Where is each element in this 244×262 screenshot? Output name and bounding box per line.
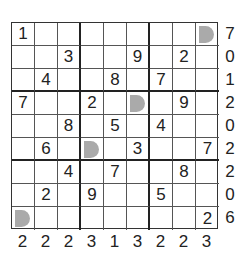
cell-r5-c5[interactable]: 5 [104, 115, 127, 138]
cell-r3-c7[interactable]: 7 [150, 69, 173, 92]
cell-r1-c7[interactable] [150, 23, 173, 46]
cell-r6-c2[interactable]: 6 [35, 138, 58, 161]
cell-value: 7 [110, 162, 119, 182]
cell-r6-c9[interactable]: 7 [196, 138, 219, 161]
cell-r2-c4[interactable] [81, 46, 104, 69]
cell-r8-c8[interactable] [173, 184, 196, 207]
cell-r5-c2[interactable] [35, 115, 58, 138]
cell-r3-c4[interactable] [81, 69, 104, 92]
cell-r7-c1[interactable] [12, 161, 35, 184]
cell-r7-c2[interactable] [35, 161, 58, 184]
cell-r4-c2[interactable] [35, 92, 58, 115]
cell-r8-c6[interactable] [127, 184, 150, 207]
cell-r8-c9[interactable] [196, 184, 219, 207]
cell-r1-c6[interactable] [127, 23, 150, 46]
column-clue-4: 3 [80, 232, 103, 252]
cell-r6-c4[interactable] [81, 138, 104, 161]
cell-r5-c1[interactable] [12, 115, 35, 138]
cell-r4-c9[interactable] [196, 92, 219, 115]
cell-r3-c2[interactable]: 4 [35, 69, 58, 92]
cell-value: 1 [18, 24, 27, 44]
cell-r1-c5[interactable] [104, 23, 127, 46]
cell-r9-c7[interactable] [150, 207, 173, 230]
cell-r8-c1[interactable] [12, 184, 35, 207]
cell-r7-c7[interactable] [150, 161, 173, 184]
cell-r1-c4[interactable] [81, 23, 104, 46]
cell-r4-c1[interactable]: 7 [12, 92, 35, 115]
cell-r8-c4[interactable]: 9 [81, 184, 104, 207]
cell-r5-c6[interactable] [127, 115, 150, 138]
cell-r5-c4[interactable] [81, 115, 104, 138]
row-clue-1: 7 [222, 24, 238, 44]
cell-r3-c5[interactable]: 8 [104, 69, 127, 92]
row-clue-8: 0 [222, 185, 238, 205]
cell-r4-c8[interactable]: 9 [173, 92, 196, 115]
cell-r9-c4[interactable] [81, 207, 104, 230]
cell-r3-c1[interactable] [12, 69, 35, 92]
cell-r8-c7[interactable]: 5 [150, 184, 173, 207]
half-circle-marker-icon [15, 210, 30, 227]
cell-r7-c3[interactable]: 4 [58, 161, 81, 184]
cell-r9-c3[interactable] [58, 207, 81, 230]
row-clue-4: 2 [222, 93, 238, 113]
cell-r4-c7[interactable] [150, 92, 173, 115]
row-clue-2: 0 [222, 47, 238, 67]
cell-r2-c1[interactable] [12, 46, 35, 69]
cell-r6-c3[interactable] [58, 138, 81, 161]
cell-r8-c5[interactable] [104, 184, 127, 207]
cell-r1-c2[interactable] [35, 23, 58, 46]
cell-r6-c8[interactable] [173, 138, 196, 161]
cell-value: 7 [156, 70, 165, 90]
cell-r9-c6[interactable] [127, 207, 150, 230]
cell-r9-c8[interactable] [173, 207, 196, 230]
cell-value: 2 [41, 185, 50, 205]
column-clue-8: 2 [172, 232, 195, 252]
cell-r2-c6[interactable]: 9 [127, 46, 150, 69]
cell-r9-c2[interactable] [35, 207, 58, 230]
cell-r3-c3[interactable] [58, 69, 81, 92]
cell-r2-c8[interactable]: 2 [173, 46, 196, 69]
cell-r1-c8[interactable] [173, 23, 196, 46]
column-clue-5: 1 [103, 232, 126, 252]
cell-r5-c7[interactable]: 4 [150, 115, 173, 138]
cell-r2-c5[interactable] [104, 46, 127, 69]
cell-r7-c5[interactable]: 7 [104, 161, 127, 184]
cell-r1-c1[interactable]: 1 [12, 23, 35, 46]
cell-r2-c9[interactable] [196, 46, 219, 69]
cell-r6-c5[interactable] [104, 138, 127, 161]
cell-r7-c6[interactable] [127, 161, 150, 184]
cell-r5-c8[interactable] [173, 115, 196, 138]
cell-r7-c4[interactable] [81, 161, 104, 184]
cell-r3-c6[interactable] [127, 69, 150, 92]
cell-r7-c9[interactable] [196, 161, 219, 184]
cell-r6-c7[interactable] [150, 138, 173, 161]
cell-r7-c8[interactable]: 8 [173, 161, 196, 184]
cell-r4-c4[interactable]: 2 [81, 92, 104, 115]
cell-r4-c5[interactable] [104, 92, 127, 115]
cell-r9-c1[interactable] [12, 207, 35, 230]
cell-value: 8 [110, 70, 119, 90]
cell-r6-c6[interactable]: 3 [127, 138, 150, 161]
cell-r4-c3[interactable] [58, 92, 81, 115]
cell-r1-c3[interactable] [58, 23, 81, 46]
cell-r9-c9[interactable]: 2 [196, 207, 219, 230]
column-clue-1: 2 [11, 232, 34, 252]
cell-value: 7 [18, 93, 27, 113]
cell-r1-c9[interactable] [196, 23, 219, 46]
cell-value: 4 [41, 70, 50, 90]
cell-r3-c9[interactable] [196, 69, 219, 92]
cell-r8-c2[interactable]: 2 [35, 184, 58, 207]
column-clue-9: 3 [195, 232, 218, 252]
cell-r5-c9[interactable] [196, 115, 219, 138]
cell-r2-c3[interactable]: 3 [58, 46, 81, 69]
cell-r6-c1[interactable] [12, 138, 35, 161]
cell-r2-c2[interactable] [35, 46, 58, 69]
cell-r9-c5[interactable] [104, 207, 127, 230]
cell-r8-c3[interactable] [58, 184, 81, 207]
cell-r2-c7[interactable] [150, 46, 173, 69]
cell-value: 9 [87, 185, 96, 205]
half-circle-marker-icon [84, 141, 99, 158]
cell-r5-c3[interactable]: 8 [58, 115, 81, 138]
cell-r4-c6[interactable] [127, 92, 150, 115]
cell-r3-c8[interactable] [173, 69, 196, 92]
